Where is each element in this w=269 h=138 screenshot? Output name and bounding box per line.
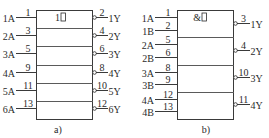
output-signal-label: 2Y bbox=[251, 46, 263, 57]
input-pin-number: 6 bbox=[166, 47, 171, 58]
input-pin: 1A1 bbox=[3, 7, 37, 24]
output-pin: 4Y8 bbox=[93, 62, 121, 79]
output-pin: 4Y11 bbox=[234, 94, 263, 111]
output-pin: 2Y4 bbox=[93, 25, 121, 42]
inversion-bubble-icon bbox=[93, 34, 97, 38]
inversion-bubble-icon bbox=[93, 107, 97, 111]
input-signal-label: 2A bbox=[142, 40, 155, 51]
output-signal-label: 3Y bbox=[109, 49, 121, 60]
input-pin-number: 9 bbox=[26, 62, 31, 73]
output-signal-label: 4Y bbox=[251, 100, 263, 111]
input-pin: 6A13 bbox=[3, 98, 37, 115]
input-pin-number: 12 bbox=[163, 89, 173, 100]
input-signal-label: 2A bbox=[3, 31, 16, 42]
input-pin: 3A5 bbox=[3, 43, 37, 60]
output-pin-number: 6 bbox=[100, 43, 105, 54]
input-pin: 4A9 bbox=[3, 62, 37, 79]
input-pin-number: 5 bbox=[26, 43, 31, 54]
inversion-bubble-icon bbox=[93, 71, 97, 75]
inversion-bubble-icon bbox=[93, 89, 97, 93]
output-signal-label: 2Y bbox=[109, 31, 121, 42]
quad-nand-diagram: &1A11B21Y32A52B62Y43A83B93Y104A124B134Y1… bbox=[142, 7, 263, 137]
output-pin: 3Y6 bbox=[93, 43, 121, 60]
output-pin-number: 4 bbox=[241, 40, 246, 51]
inversion-bubble-icon bbox=[234, 49, 238, 53]
inversion-bubble-icon bbox=[234, 103, 238, 107]
input-signal-label: 3A bbox=[3, 49, 16, 60]
input-pin-number: 2 bbox=[166, 20, 171, 31]
input-signal-label: 5A bbox=[3, 86, 16, 97]
output-pin-number: 2 bbox=[100, 7, 105, 18]
input-signal-label: 1B bbox=[142, 26, 154, 37]
output-pin-number: 12 bbox=[97, 98, 107, 109]
output-pin: 1Y2 bbox=[93, 7, 121, 24]
output-signal-label: 1Y bbox=[109, 13, 121, 24]
input-pin-number: 11 bbox=[23, 80, 33, 91]
input-signal-label: 4B bbox=[142, 107, 154, 118]
input-pin-number: 1 bbox=[166, 7, 171, 18]
input-pin: 3A8 bbox=[142, 62, 178, 79]
input-pin: 1A1 bbox=[142, 7, 178, 24]
input-pin-number: 9 bbox=[166, 74, 171, 85]
input-pin-number: 13 bbox=[163, 101, 173, 112]
input-pin: 5A11 bbox=[3, 80, 37, 97]
input-pin-number: 1 bbox=[26, 7, 31, 18]
output-pin: 1Y3 bbox=[234, 13, 263, 30]
input-signal-label: 3B bbox=[142, 80, 154, 91]
input-signal-label: 6A bbox=[3, 104, 16, 115]
input-pin-number: 3 bbox=[26, 25, 31, 36]
input-signal-label: 1A bbox=[3, 13, 16, 24]
output-pin: 6Y12 bbox=[93, 98, 121, 115]
inversion-bubble-icon bbox=[234, 76, 238, 80]
output-pin: 5Y10 bbox=[93, 80, 121, 97]
gate-function-symbol: & bbox=[193, 12, 201, 23]
output-pin-number: 10 bbox=[97, 80, 107, 91]
diagram-caption: b) bbox=[202, 124, 210, 136]
diagram-caption: a) bbox=[54, 124, 62, 136]
input-signal-label: 4A bbox=[3, 68, 16, 79]
output-pin-number: 8 bbox=[100, 62, 105, 73]
output-signal-label: 1Y bbox=[251, 19, 263, 30]
output-pin: 3Y10 bbox=[234, 67, 263, 84]
inversion-bubble-icon bbox=[93, 16, 97, 20]
output-pin-number: 3 bbox=[241, 13, 246, 24]
input-pin-number: 13 bbox=[23, 98, 33, 109]
gate-function-symbol: 1 bbox=[55, 12, 60, 23]
output-signal-label: 3Y bbox=[251, 73, 263, 84]
input-pin-number: 5 bbox=[166, 34, 171, 45]
input-signal-label: 1A bbox=[142, 13, 155, 24]
output-signal-label: 4Y bbox=[109, 68, 121, 79]
input-signal-label: 4A bbox=[142, 95, 155, 106]
output-pin-number: 10 bbox=[239, 67, 249, 78]
inversion-bubble-icon bbox=[234, 22, 238, 26]
output-pin-number: 11 bbox=[239, 94, 249, 105]
output-pin: 2Y4 bbox=[234, 40, 263, 57]
input-pin-number: 8 bbox=[166, 62, 171, 73]
input-signal-label: 3A bbox=[142, 68, 155, 79]
logic-gate-diagram: 11A11Y22A32Y43A53Y64A94Y85A115Y106A136Y1… bbox=[0, 0, 269, 138]
inversion-bubble-icon bbox=[93, 52, 97, 56]
output-signal-label: 5Y bbox=[109, 86, 121, 97]
output-pin-number: 4 bbox=[100, 25, 105, 36]
hex-inverter-diagram: 11A11Y22A32Y43A53Y64A94Y85A115Y106A136Y1… bbox=[3, 7, 121, 137]
output-signal-label: 6Y bbox=[109, 104, 121, 115]
input-pin: 2A3 bbox=[3, 25, 37, 42]
input-signal-label: 2B bbox=[142, 53, 154, 64]
